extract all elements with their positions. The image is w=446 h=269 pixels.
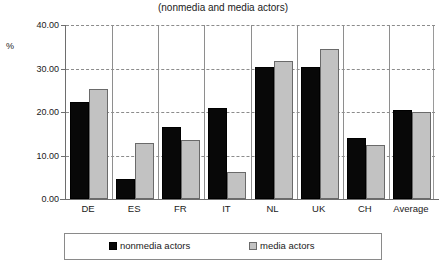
legend-swatch-icon-nonmedia <box>109 242 117 250</box>
x-axis-label-it: IT <box>203 203 249 215</box>
x-axis-line <box>60 199 439 200</box>
chart-legend: nonmedia actors media actors <box>64 233 382 260</box>
legend-item-nonmedia-actors: nonmedia actors <box>109 240 190 252</box>
x-axis-label-es: ES <box>111 203 157 215</box>
y-axis-tick <box>61 112 66 113</box>
legend-label-media: media actors <box>260 240 314 252</box>
category-separator <box>297 25 298 199</box>
x-axis-tick-labels: DEESFRITNLUKCHAverage <box>65 203 434 219</box>
y-axis-tick-labels: 0.0010.0020.0030.0040.00 <box>17 25 59 199</box>
bar-chart: (nonmedia and media actors) % 0.0010.002… <box>0 0 446 269</box>
y-axis-tick <box>61 69 66 70</box>
y-axis-label: % <box>6 41 14 51</box>
bar-it-media <box>227 172 246 199</box>
x-axis-label-nl: NL <box>250 203 296 215</box>
plot-area <box>65 25 434 199</box>
bar-de-nonmedia <box>70 102 89 199</box>
bar-de-media <box>89 89 108 199</box>
category-separator <box>389 25 390 199</box>
y-axis-tick-label: 0.00 <box>19 194 59 204</box>
x-axis-label-uk: UK <box>296 203 342 215</box>
bar-es-media <box>135 143 154 199</box>
x-axis-label-average: Average <box>388 203 434 215</box>
legend-swatch-icon-media <box>249 242 257 250</box>
category-separator <box>251 25 252 199</box>
category-separator <box>112 25 113 199</box>
bar-nl-nonmedia <box>255 67 274 199</box>
bar-ch-nonmedia <box>347 138 366 199</box>
y-axis-tick-label: 40.00 <box>19 20 59 30</box>
category-separator <box>204 25 205 199</box>
x-axis-label-de: DE <box>65 203 111 215</box>
bar-ch-media <box>366 145 385 199</box>
bar-uk-media <box>320 49 339 199</box>
y-axis-tick <box>61 156 66 157</box>
y-axis-tick-label: 30.00 <box>19 64 59 74</box>
y-axis-tick <box>61 25 66 26</box>
x-axis-label-ch: CH <box>342 203 388 215</box>
category-separator <box>343 25 344 199</box>
bar-nl-media <box>274 61 293 199</box>
bar-fr-media <box>181 140 200 199</box>
bar-fr-nonmedia <box>162 127 181 199</box>
chart-title: (nonmedia and media actors) <box>0 2 446 14</box>
bar-uk-nonmedia <box>301 67 320 199</box>
legend-item-media-actors: media actors <box>249 240 314 252</box>
y-axis-tick-label: 10.00 <box>19 151 59 161</box>
x-axis-label-fr: FR <box>157 203 203 215</box>
bar-average-nonmedia <box>393 110 412 199</box>
legend-label-nonmedia: nonmedia actors <box>120 240 190 252</box>
y-axis-tick-label: 20.00 <box>19 107 59 117</box>
bar-average-media <box>412 112 431 199</box>
bar-it-nonmedia <box>208 108 227 199</box>
category-separator <box>158 25 159 199</box>
bar-es-nonmedia <box>116 179 135 199</box>
